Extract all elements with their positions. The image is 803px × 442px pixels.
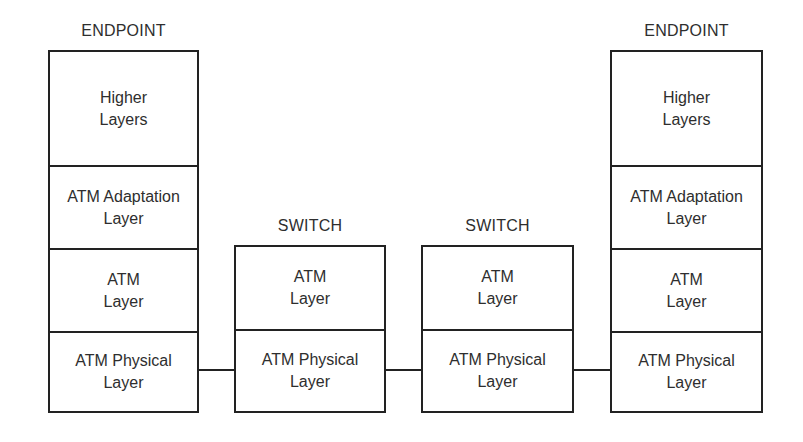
physical-link-switch2-endpoint xyxy=(574,369,610,371)
layer-atm-adaptation: ATM Adaptation Layer xyxy=(50,165,197,248)
endpoint-left-title: ENDPOINT xyxy=(48,22,199,40)
layer-atm: ATM Layer xyxy=(423,247,572,329)
switch-2-stack: ATM Layer ATM Physical Layer xyxy=(421,245,574,413)
endpoint-right-title: ENDPOINT xyxy=(610,22,763,40)
layer-atm: ATM Layer xyxy=(236,247,384,329)
endpoint-right-stack: Higher Layers ATM Adaptation Layer ATM L… xyxy=(610,50,763,413)
switch-1-stack: ATM Layer ATM Physical Layer xyxy=(234,245,386,413)
layer-atm-physical: ATM Physical Layer xyxy=(423,329,572,411)
layer-atm-physical: ATM Physical Layer xyxy=(612,331,761,411)
layer-atm: ATM Layer xyxy=(612,248,761,331)
physical-link-switch1-switch2 xyxy=(386,369,421,371)
switch-2-title: SWITCH xyxy=(421,217,574,235)
atm-protocol-diagram: ENDPOINT Higher Layers ATM Adaptation La… xyxy=(0,0,803,442)
endpoint-left-stack: Higher Layers ATM Adaptation Layer ATM L… xyxy=(48,50,199,413)
layer-atm-physical: ATM Physical Layer xyxy=(236,329,384,411)
layer-higher-layers: Higher Layers xyxy=(50,52,197,165)
layer-higher-layers: Higher Layers xyxy=(612,52,761,165)
layer-atm-adaptation: ATM Adaptation Layer xyxy=(612,165,761,248)
layer-atm: ATM Layer xyxy=(50,248,197,331)
switch-1-title: SWITCH xyxy=(234,217,386,235)
physical-link-endpoint-switch1 xyxy=(199,369,234,371)
layer-atm-physical: ATM Physical Layer xyxy=(50,331,197,411)
